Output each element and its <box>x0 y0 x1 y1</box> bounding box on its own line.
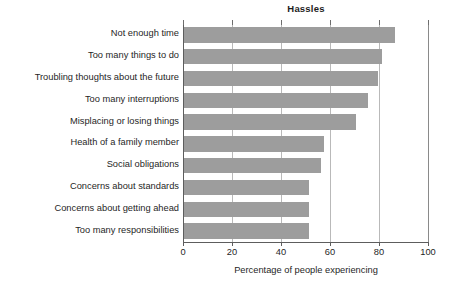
category-label: Social obligations <box>5 159 183 169</box>
x-tick-mark-80 <box>379 242 380 246</box>
bar <box>184 71 378 86</box>
bar <box>184 136 324 151</box>
bar-row <box>184 68 429 90</box>
x-tick-label: 40 <box>266 247 296 257</box>
bar-row <box>184 133 429 155</box>
x-axis-line <box>183 242 429 243</box>
bar <box>184 158 321 173</box>
category-label: Concerns about getting ahead <box>5 203 183 213</box>
x-tick-mark-40 <box>281 242 282 246</box>
chart-title: Hassles <box>183 3 429 14</box>
category-label: Too many interruptions <box>5 94 183 104</box>
bar-row <box>184 220 429 242</box>
bar-chart: Hassles Not enough timeToo many things t… <box>0 0 459 293</box>
bar <box>184 93 368 108</box>
category-label: Misplacing or losing things <box>5 116 183 126</box>
category-axis-labels: Not enough timeToo many things to doTrou… <box>0 24 183 242</box>
bar <box>184 202 309 217</box>
bar <box>184 49 382 64</box>
category-label: Too many things to do <box>5 50 183 60</box>
category-label: Troubling thoughts about the future <box>5 72 183 82</box>
bar <box>184 27 395 42</box>
x-axis-title: Percentage of people experiencing <box>183 265 429 275</box>
category-label: Health of a family member <box>5 137 183 147</box>
bar <box>184 114 356 129</box>
x-tick-mark-100 <box>428 242 429 246</box>
bar-row <box>184 24 429 46</box>
x-tick-label: 80 <box>364 247 394 257</box>
x-tick-label: 0 <box>168 247 198 257</box>
category-label: Not enough time <box>5 28 183 38</box>
bar <box>184 180 309 195</box>
bar-row <box>184 155 429 177</box>
category-label: Concerns about standards <box>5 181 183 191</box>
bar-row <box>184 46 429 68</box>
bar-row <box>184 177 429 199</box>
x-tick-label: 60 <box>315 247 345 257</box>
x-tick-label: 20 <box>217 247 247 257</box>
bar <box>184 223 309 238</box>
category-label: Too many responsibilities <box>5 225 183 235</box>
bar-row <box>184 111 429 133</box>
bar-row <box>184 198 429 220</box>
x-tick-label: 100 <box>413 247 443 257</box>
bar-row <box>184 89 429 111</box>
x-tick-mark-60 <box>330 242 331 246</box>
x-tick-mark-20 <box>232 242 233 246</box>
x-tick-mark-0 <box>183 242 184 246</box>
plot-area <box>183 24 429 242</box>
